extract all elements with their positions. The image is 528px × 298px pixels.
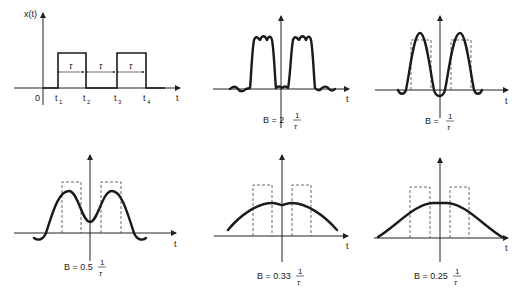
panel-b-2: t B = 2 1 τ [213, 16, 349, 131]
panel-b-0.33: t B = 0.33 1 τ [214, 155, 349, 287]
origin-label: 0 [35, 93, 40, 103]
svg-text:B =: B = [425, 116, 439, 126]
svg-text:1: 1 [295, 111, 300, 120]
bandwidth-pulse-figure: x(t) 0 τ τ τ t 1 t 2 t 3 t 4 t t [0, 0, 528, 298]
svg-text:1: 1 [100, 258, 105, 267]
svg-text:1: 1 [298, 267, 303, 276]
bandwidth-caption: B = 0.5 1 τ [64, 258, 106, 278]
ideal-pulse-outline [411, 40, 471, 90]
x-axis-label: t [505, 243, 508, 253]
svg-text:3: 3 [118, 99, 122, 105]
svg-text:B = 0.5: B = 0.5 [64, 262, 93, 272]
panel-b-0.25: t B = 0.25 1 τ [374, 158, 508, 287]
pulse-train [43, 53, 165, 88]
time-label-t2: t 2 [83, 93, 91, 105]
x-axis-label: t [346, 94, 349, 104]
reconstructed-signal [230, 36, 335, 91]
svg-text:τ: τ [297, 278, 301, 287]
svg-text:t: t [114, 93, 117, 103]
x-axis-label: t [505, 96, 508, 106]
bandwidth-caption: B = 0.33 1 τ [257, 267, 304, 287]
y-axis-label: x(t) [24, 9, 37, 19]
time-label-t1: t 1 [55, 93, 63, 105]
svg-text:B = 0.33: B = 0.33 [257, 271, 291, 281]
tau-label-1: τ [69, 61, 73, 71]
svg-text:B = 2: B = 2 [263, 115, 284, 125]
x-axis-label: t [176, 93, 179, 103]
x-axis-label: t [346, 241, 349, 251]
svg-text:B = 0.25: B = 0.25 [414, 271, 448, 281]
svg-text:τ: τ [454, 278, 458, 287]
svg-text:τ: τ [99, 269, 103, 278]
time-label-t4: t 4 [143, 93, 151, 105]
panel-b-1: t B = 1 τ [375, 16, 508, 132]
x-axis-label: t [174, 239, 177, 249]
ideal-pulse-outline [62, 182, 121, 233]
svg-text:1: 1 [59, 99, 63, 105]
svg-text:1: 1 [455, 267, 460, 276]
svg-text:1: 1 [448, 112, 453, 121]
tau-label-3: τ [129, 61, 133, 71]
svg-text:2: 2 [87, 99, 91, 105]
svg-text:t: t [143, 93, 146, 103]
svg-text:τ: τ [294, 122, 298, 131]
time-label-t3: t 3 [114, 93, 122, 105]
panel-b-0.5: t B = 0.5 1 τ [14, 155, 177, 278]
bandwidth-caption: B = 0.25 1 τ [414, 267, 461, 287]
svg-text:4: 4 [147, 99, 151, 105]
svg-text:τ: τ [447, 123, 451, 132]
bandwidth-caption: B = 2 1 τ [263, 111, 301, 131]
panel-original-signal: x(t) 0 τ τ τ t 1 t 2 t 3 t 4 t [14, 9, 180, 105]
tau-label-2: τ [99, 61, 103, 71]
svg-text:t: t [55, 93, 58, 103]
svg-text:t: t [83, 93, 86, 103]
